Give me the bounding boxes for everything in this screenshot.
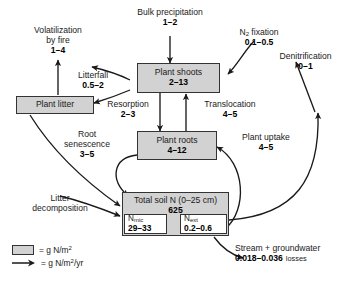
- label-litterfall-text: Litterfall: [78, 70, 108, 80]
- label-n2-fixation-value: 0.1–0.5: [216, 38, 302, 48]
- subbox-n-ext-value: 0.2–0.6: [184, 224, 212, 233]
- label-bulk-precipitation-text: Bulk precipitation: [137, 7, 202, 17]
- label-n2-fixation-text: N2 fixation: [239, 27, 278, 37]
- label-root-senescence-line1: Root: [78, 129, 96, 139]
- box-plant-litter-label: Plant litter: [36, 100, 74, 110]
- label-stream-groundwater-line1: Stream + groundwater: [235, 243, 346, 253]
- subbox-n-ext[interactable]: Next 0.2–0.6: [180, 214, 227, 234]
- arrow-soil-to-shoots-long: [229, 113, 318, 220]
- subbox-n-mic[interactable]: Nmic 29–33: [124, 214, 167, 234]
- arrow-litter-decomposition-upper: [30, 115, 120, 206]
- label-root-senescence: Root senescence 3–5: [49, 130, 125, 160]
- pool-swatch-icon: [12, 245, 34, 255]
- label-resorption-text: Resorption: [107, 99, 149, 109]
- label-volatilization-line1: Volatilization: [34, 25, 82, 35]
- label-plant-uptake: Plant uptake 4–5: [228, 133, 304, 153]
- subbox-n-mic-value: 29–33: [128, 224, 151, 233]
- label-plant-uptake-value: 4–5: [228, 143, 304, 153]
- label-n2-fixation: N2 fixation 0.1–0.5: [216, 28, 302, 48]
- box-plant-roots-value: 4–12: [167, 146, 186, 156]
- label-litterfall-value: 0.5–2: [61, 81, 125, 91]
- legend-flux-units-text: = g N/m2/yr: [41, 258, 83, 268]
- label-litterfall: Litterfall 0.5–2: [61, 71, 125, 91]
- label-bulk-precipitation-value: 1–2: [117, 18, 223, 28]
- legend: = g N/m2 = g N/m2/yr: [12, 243, 83, 269]
- label-resorption: Resorption 2–3: [96, 100, 160, 120]
- label-plant-uptake-text: Plant uptake: [242, 132, 290, 142]
- label-litter-decomposition-line1: Litter: [50, 193, 69, 203]
- label-denitrification-value: 0–1: [265, 62, 346, 72]
- box-plant-shoots[interactable]: Plant shoots 2–13: [137, 63, 220, 93]
- label-root-senescence-value: 3–5: [49, 150, 125, 160]
- label-denitrification-text: Denitrification: [279, 51, 331, 61]
- label-resorption-value: 2–3: [96, 110, 160, 120]
- box-plant-shoots-value: 2–13: [169, 78, 188, 88]
- label-denitrification: Denitrification 0–1: [265, 52, 346, 72]
- label-bulk-precipitation: Bulk precipitation 1–2: [117, 8, 223, 28]
- box-plant-litter[interactable]: Plant litter: [16, 96, 94, 114]
- legend-pool-units-text: = g N/m2: [39, 245, 72, 255]
- label-volatilization-by-fire: Volatilization by fire 1–4: [8, 26, 108, 56]
- box-plant-roots[interactable]: Plant roots 4–12: [137, 131, 217, 160]
- nitrogen-cycle-diagram: Plant shoots 2–13 Plant litter Plant roo…: [0, 0, 346, 285]
- label-litter-decomposition: Litter decomposition: [14, 194, 106, 214]
- arrow-root-senescence: [116, 155, 137, 196]
- legend-item-flux-units: = g N/m2/yr: [12, 256, 83, 269]
- arrow-glyph-icon: [12, 258, 36, 268]
- label-translocation-text: Translocation: [204, 99, 255, 109]
- label-litter-decomposition-line2: decomposition: [14, 204, 106, 214]
- label-stream-groundwater-suffix: losses: [286, 254, 307, 263]
- label-stream-groundwater-losses: Stream + groundwater 0.018–0.036losses: [235, 243, 346, 264]
- label-translocation: Translocation 4–5: [192, 100, 268, 120]
- label-stream-groundwater-value: 0.018–0.036: [235, 253, 283, 263]
- legend-item-pool-units: = g N/m2: [12, 243, 83, 256]
- label-volatilization-value: 1–4: [8, 46, 108, 56]
- label-translocation-value: 4–5: [192, 110, 268, 120]
